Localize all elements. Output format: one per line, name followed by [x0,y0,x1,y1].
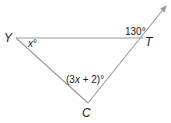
vertex-label-t: T [145,36,152,48]
angle-label-y: x° [28,39,37,49]
angle-c-prefix: (3 [66,74,75,85]
angle-c-suffix: + 2)° [80,74,104,85]
ray-ct-extended [88,6,166,103]
angle-label-c: (3x + 2)° [66,75,104,85]
vertex-label-c: C [82,107,91,119]
angle-y-suffix: ° [33,38,37,49]
triangle-figure [0,0,171,123]
angle-label-exterior-t: 130° [125,27,146,37]
vertex-label-y: Y [4,32,12,44]
side-yc [16,38,88,103]
